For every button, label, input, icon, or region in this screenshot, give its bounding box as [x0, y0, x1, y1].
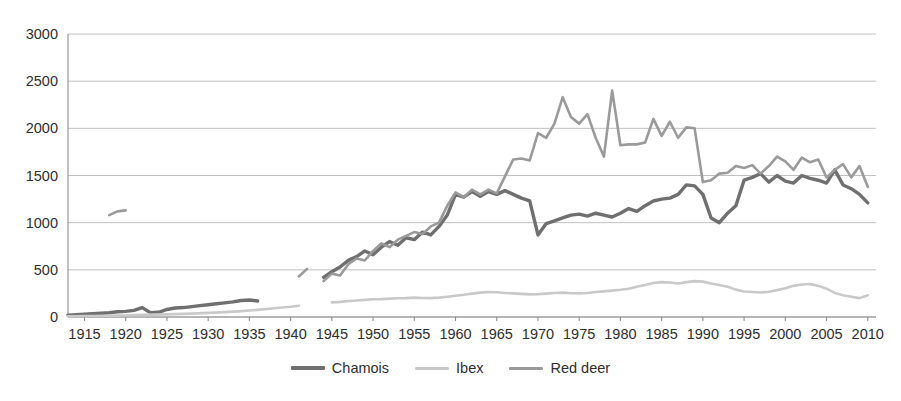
y-axis-tick-labels: 050010001500200025003000	[26, 26, 58, 325]
series-line-chamois	[324, 170, 868, 278]
y-tick-label: 3000	[26, 26, 58, 42]
legend-label: Ibex	[456, 360, 483, 376]
x-tick-label: 1995	[728, 326, 760, 342]
legend-item-chamois[interactable]: Chamois	[291, 360, 389, 376]
legend-label: Chamois	[332, 360, 389, 376]
x-tick-label: 1950	[357, 326, 389, 342]
x-tick-label: 1930	[192, 326, 224, 342]
x-tick-label: 1970	[522, 326, 554, 342]
y-tick-label: 1000	[26, 215, 58, 231]
x-tick-label: 1920	[110, 326, 142, 342]
legend-label: Red deer	[550, 360, 610, 376]
x-tick-label: 1940	[274, 326, 306, 342]
x-tick-label: 1975	[563, 326, 595, 342]
legend: ChamoisIbexRed deer	[0, 360, 901, 376]
y-tick-label: 2500	[26, 73, 58, 89]
series-line-red-deer	[324, 91, 868, 282]
y-tick-label: 0	[50, 309, 58, 325]
x-tick-label: 1945	[316, 326, 348, 342]
x-tick-label: 2005	[810, 326, 842, 342]
series-group	[68, 91, 868, 317]
legend-item-ibex[interactable]: Ibex	[415, 360, 483, 376]
legend-swatch-icon	[509, 367, 543, 370]
x-tick-label: 1925	[151, 326, 183, 342]
x-tick-label: 1980	[604, 326, 636, 342]
series-line-red-deer	[109, 210, 125, 215]
x-tick-label: 1990	[687, 326, 719, 342]
x-tick-label: 1960	[439, 326, 471, 342]
x-tick-label: 1965	[481, 326, 513, 342]
x-tick-label: 2010	[852, 326, 884, 342]
legend-swatch-icon	[415, 367, 449, 370]
y-tick-label: 500	[34, 262, 58, 278]
x-tick-label: 1915	[68, 326, 100, 342]
legend-item-red-deer[interactable]: Red deer	[509, 360, 610, 376]
x-tick-label: 1985	[645, 326, 677, 342]
line-chart: 050010001500200025003000 191519201925193…	[0, 0, 901, 401]
x-tick-label: 1955	[398, 326, 430, 342]
series-line-ibex	[332, 281, 868, 302]
plot-area: 050010001500200025003000 191519201925193…	[0, 0, 901, 401]
x-axis-tick-labels: 1915192019251930193519401945195019551960…	[68, 326, 884, 342]
x-tick-label: 1935	[233, 326, 265, 342]
x-tick-label: 2000	[769, 326, 801, 342]
legend-swatch-icon	[291, 366, 325, 369]
y-tick-label: 1500	[26, 168, 58, 184]
y-tick-label: 2000	[26, 120, 58, 136]
